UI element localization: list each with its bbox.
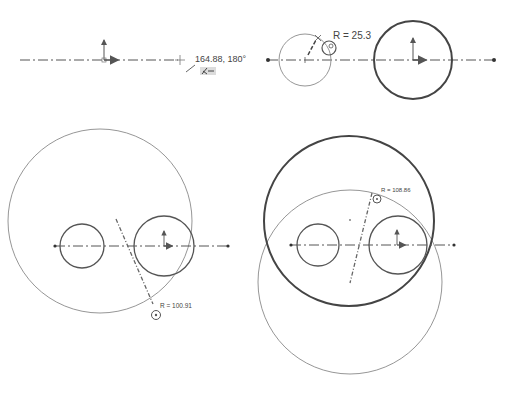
circle-cursor-icon <box>322 41 336 55</box>
sketch-line-cursor-icon <box>186 65 216 75</box>
origin-icon <box>102 40 118 62</box>
circle-cursor-icon <box>152 311 161 320</box>
sketch-canvas[interactable]: 164.88, 180° R = 25.3 <box>0 0 509 396</box>
origin-icon <box>397 230 405 245</box>
centerline-endpoint[interactable] <box>266 58 270 62</box>
centerline-endpoint[interactable] <box>492 58 496 62</box>
enclosing-circle-preview[interactable] <box>8 129 192 313</box>
origin-icon <box>413 38 426 60</box>
panel-two-circles-sketch: R = 25.3 <box>266 21 496 99</box>
radius-label: R = 100.91 <box>160 302 192 309</box>
crosshair-cursor-icon <box>175 55 185 65</box>
cursor-readout: 164.88, 180° <box>195 54 247 64</box>
radius-preview-line <box>350 193 372 283</box>
radius-label: R = 25.3 <box>333 30 372 41</box>
panel-centerline-sketch: 164.88, 180° <box>20 40 247 75</box>
panel-enclosing-circle-sketch: R = 100.91 <box>8 129 230 320</box>
panel-second-circle-sketch: R = 108.86 <box>258 136 456 374</box>
enclosing-circle[interactable] <box>264 136 434 306</box>
radius-label: R = 108.86 <box>381 187 411 193</box>
origin-icon <box>164 231 172 246</box>
circle-point-marker <box>315 35 321 41</box>
center-point <box>349 219 351 221</box>
circle-cursor-icon <box>373 195 381 203</box>
radius-preview-line <box>116 219 153 304</box>
radius-preview-line <box>308 40 316 55</box>
